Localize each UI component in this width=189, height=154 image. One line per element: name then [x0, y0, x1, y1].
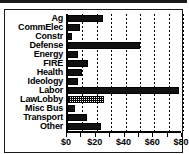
bar-row	[68, 68, 181, 77]
bar-row	[68, 41, 181, 50]
bar	[68, 42, 140, 49]
x-axis-tick-label: $40	[116, 136, 131, 148]
bar	[68, 78, 78, 85]
bar-row	[68, 32, 181, 41]
bar	[68, 60, 88, 67]
x-axis-tick-labels: $0$20$40$60$80	[66, 136, 187, 150]
bar-row	[68, 50, 181, 59]
bar-row	[68, 104, 181, 113]
x-axis-tick-label: $60	[145, 136, 160, 148]
bar	[68, 87, 179, 94]
bar	[68, 105, 75, 112]
bar	[68, 69, 82, 76]
bar	[68, 15, 103, 22]
plot-area	[66, 14, 181, 131]
bar-row	[68, 23, 181, 32]
bar-row	[68, 77, 181, 86]
bar-row	[68, 95, 181, 104]
bar-row	[68, 59, 181, 68]
bar	[68, 123, 101, 130]
chart-plot-container: AgCommElecConstrDefenseEnergyFIREHealthI…	[4, 9, 183, 153]
bar	[68, 24, 80, 31]
x-axis-tick-label: $20	[87, 136, 102, 148]
bar-row	[68, 14, 181, 23]
bar-row	[68, 122, 181, 131]
x-axis-tick-label: $80	[173, 136, 187, 148]
gridline	[183, 14, 184, 131]
x-axis-tick-label: $0	[61, 136, 71, 148]
bar	[68, 51, 78, 58]
bar-series	[68, 14, 181, 131]
bar	[68, 96, 104, 103]
bar-row	[68, 113, 181, 122]
bar	[68, 114, 87, 121]
bar-row	[68, 86, 181, 95]
bar	[68, 33, 72, 40]
category-label: Other	[5, 122, 65, 131]
chart-frame: AgCommElecConstrDefenseEnergyFIREHealthI…	[0, 0, 187, 154]
category-axis: AgCommElecConstrDefenseEnergyFIREHealthI…	[5, 14, 65, 131]
